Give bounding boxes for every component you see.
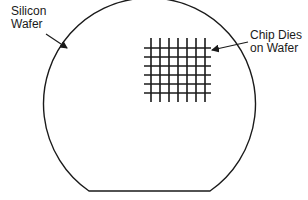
chip-die-grid <box>144 38 211 102</box>
wafer-label-line2: Wafer <box>11 18 46 31</box>
wafer-outline <box>43 0 255 191</box>
dies-arrow <box>212 42 248 50</box>
dies-label-line2: on Wafer <box>250 42 302 55</box>
silicon-wafer-label: Silicon Wafer <box>11 5 46 31</box>
chip-dies-label: Chip Dies on Wafer <box>250 29 302 55</box>
